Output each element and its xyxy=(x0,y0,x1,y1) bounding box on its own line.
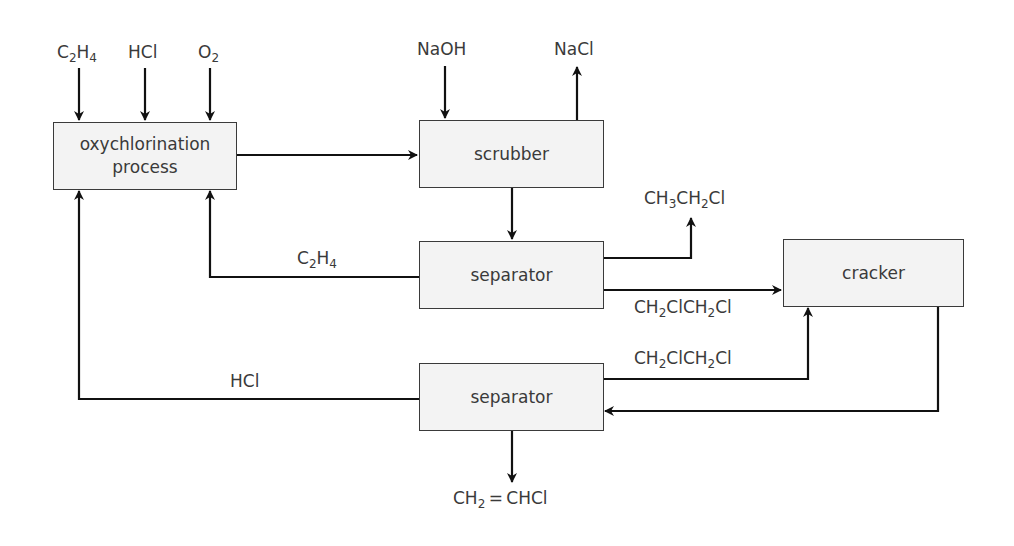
hcl-recycle-label: HCl xyxy=(230,371,259,391)
arrow-ethyl-chloride-out xyxy=(603,218,691,258)
dce-to-cracker-label: CH2ClCH2Cl xyxy=(634,297,732,317)
hcl-input-label: HCl xyxy=(128,42,157,62)
separator-2-label: separator xyxy=(471,386,553,409)
scrubber-box: scrubber xyxy=(419,120,604,188)
oxychlorination-box: oxychlorination process xyxy=(53,122,237,190)
c2h4-recycle-label: C2H4 xyxy=(297,248,337,268)
separator-1-box: separator xyxy=(419,241,604,309)
vinyl-chloride-label: CH2 = CHCl xyxy=(453,488,548,508)
oxychlorination-label: oxychlorination process xyxy=(75,133,215,179)
ethyl-chloride-label: CH3CH2Cl xyxy=(644,188,725,208)
nacl-output-label: NaCl xyxy=(554,39,594,59)
separator-1-label: separator xyxy=(471,264,553,287)
naoh-input-label: NaOH xyxy=(417,39,466,59)
separator-2-box: separator xyxy=(419,363,604,431)
arrow-dce-recycle xyxy=(603,308,808,379)
c2h4-input-label: C2H4 xyxy=(57,42,97,62)
cracker-label: cracker xyxy=(842,262,905,285)
scrubber-label: scrubber xyxy=(474,143,549,166)
cracker-box: cracker xyxy=(783,239,964,307)
dce-recycle-label: CH2ClCH2Cl xyxy=(634,348,732,368)
arrow-hcl-recycle xyxy=(79,191,419,399)
o2-input-label: O2 xyxy=(198,42,219,62)
